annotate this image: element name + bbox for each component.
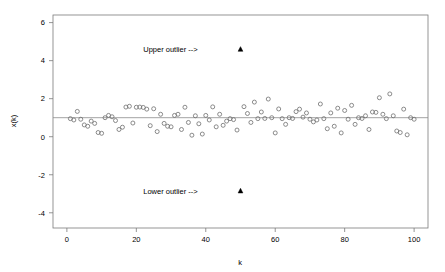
x-tick-label: 20 [132, 235, 140, 244]
data-point [377, 96, 381, 100]
data-point [350, 103, 354, 107]
outlier-markers-layer [238, 47, 243, 193]
outlier-point [238, 188, 243, 193]
data-point [131, 121, 135, 125]
annotations-layer: Upper outlier -->Lower outlier --> [143, 45, 198, 196]
y-tick-label: -2 [38, 171, 45, 180]
data-point [120, 125, 124, 129]
data-point [273, 131, 277, 135]
data-point [190, 133, 194, 137]
data-point [75, 109, 79, 113]
data-point [86, 124, 90, 128]
data-point [332, 124, 336, 128]
data-points-layer [68, 92, 416, 137]
data-point [318, 102, 322, 106]
x-axis-ticks: 020406080100 [65, 228, 421, 244]
x-tick-label: 80 [340, 235, 348, 244]
data-point [159, 112, 163, 116]
data-point [211, 105, 215, 109]
data-point [343, 108, 347, 112]
outlier-point [238, 47, 243, 52]
data-point [152, 107, 156, 111]
data-point [252, 100, 256, 104]
data-point [364, 114, 368, 118]
data-point [322, 117, 326, 121]
data-point [353, 122, 357, 126]
data-point [221, 123, 225, 127]
data-point [301, 115, 305, 119]
data-point [93, 121, 97, 125]
data-point [339, 131, 343, 135]
y-tick-label: 0 [41, 133, 45, 142]
data-point [277, 107, 281, 111]
x-tick-label: 100 [408, 235, 421, 244]
data-point [72, 118, 76, 122]
data-point [235, 128, 239, 132]
data-point [391, 114, 395, 118]
data-point [214, 125, 218, 129]
x-tick-label: 40 [202, 235, 210, 244]
data-point [263, 116, 267, 120]
y-axis-ticks: 6420-2-4 [38, 18, 53, 217]
data-point [384, 117, 388, 121]
data-point [280, 117, 284, 121]
lower-outlier-label: Lower outlier --> [143, 187, 198, 196]
data-point [186, 120, 190, 124]
data-point [266, 97, 270, 101]
data-point [315, 118, 319, 122]
y-tick-label: 4 [41, 56, 45, 65]
data-point [304, 111, 308, 115]
data-point [329, 111, 333, 115]
data-point [325, 127, 329, 131]
y-tick-label: 2 [41, 94, 45, 103]
data-point [183, 105, 187, 109]
data-point [148, 124, 152, 128]
data-point [405, 133, 409, 137]
data-point [114, 119, 118, 123]
data-point [402, 107, 406, 111]
data-point [207, 118, 211, 122]
data-point [298, 107, 302, 111]
data-point [110, 115, 114, 119]
data-point [284, 122, 288, 126]
data-point [245, 112, 249, 116]
data-point [249, 120, 253, 124]
x-tick-label: 60 [271, 235, 279, 244]
data-point [162, 121, 166, 125]
y-tick-label: 6 [41, 18, 45, 27]
data-point [388, 92, 392, 96]
x-tick-label: 0 [65, 235, 69, 244]
data-point [336, 106, 340, 110]
data-point [193, 114, 197, 118]
data-point [367, 127, 371, 131]
data-point [256, 117, 260, 121]
data-point [155, 130, 159, 134]
data-point [179, 127, 183, 131]
data-point [200, 132, 204, 136]
data-point [145, 107, 149, 111]
data-point [197, 122, 201, 126]
upper-outlier-label: Upper outlier --> [143, 45, 198, 54]
data-point [242, 105, 246, 109]
data-point [259, 110, 263, 114]
x-axis-title: k [238, 258, 242, 267]
data-point [398, 131, 402, 135]
data-point [218, 112, 222, 116]
scatter-plot-figure: 020406080100 6420-2-4 Upper outlier -->L… [0, 0, 445, 272]
plot-canvas: 020406080100 6420-2-4 Upper outlier -->L… [0, 0, 445, 272]
y-tick-label: -4 [38, 209, 45, 218]
y-axis-title: x(k) [9, 114, 18, 127]
data-point [381, 112, 385, 116]
data-point [204, 113, 208, 117]
